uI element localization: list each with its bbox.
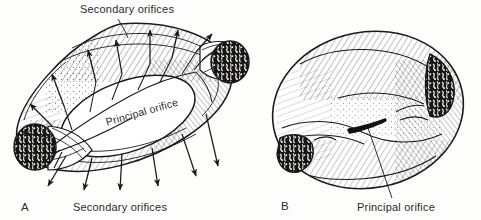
panel-b-cut-end-left xyxy=(277,135,313,173)
cut-surface-right-a xyxy=(211,41,249,83)
panel-a-letter: A xyxy=(21,201,29,213)
label-secondary-orifices-bottom: Secondary orifices xyxy=(73,201,167,213)
label-principal-orifice-b: Principal orifice xyxy=(357,201,435,213)
flow-arrow xyxy=(182,134,196,176)
label-secondary-orifices-top: Secondary orifices xyxy=(80,3,174,15)
flow-arrow xyxy=(206,114,218,166)
figure-illustration: Secondary orifices Principal orifice Sec… xyxy=(0,0,481,220)
panel-b-drawing xyxy=(259,15,477,205)
cut-surface-left-a xyxy=(14,124,56,170)
panel-b-letter: B xyxy=(281,200,289,212)
panel-a-drawing xyxy=(14,19,249,190)
illustration-canvas xyxy=(0,0,481,220)
